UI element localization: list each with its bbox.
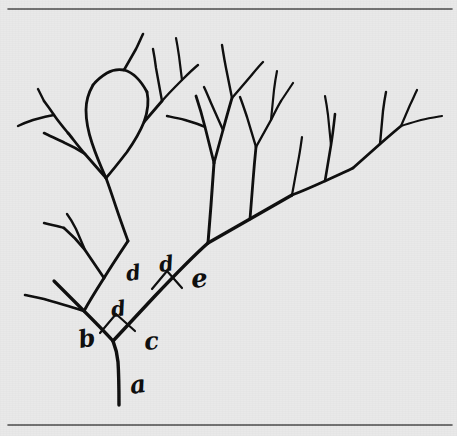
branch-right-branch-3 [292,168,353,195]
branch-trunk [113,341,119,405]
label-b: b [76,322,98,353]
branch-center-stem [208,163,214,243]
branch-right-mid-tip [292,137,302,195]
label-d3: d [157,250,175,277]
branch-right-stem-up [250,147,256,219]
label-a: a [128,369,148,400]
label-e: e [189,262,209,294]
branch-mid-tip-end [176,38,182,80]
branch-right-up-fork-r [256,101,281,147]
branch-left-canopy-tip1 [18,115,54,126]
branch-leaf-right-arc [106,92,148,178]
branch-left-fork-node [64,228,104,278]
drawing-figure: abcddde [0,0,457,436]
branch-left-canopy-tip2 [38,89,44,101]
branch-center-left-tip [167,116,205,127]
branch-center-up-fork-l [204,87,223,130]
branch-right-up-tip-b [281,83,293,101]
label-d1: d [109,295,127,322]
branch-center-up-fork-r [222,45,232,98]
branch-left-top-stem [106,178,128,241]
branch-leaf-apex [93,70,147,92]
branch-left-canopy-left [44,133,85,154]
label-c: c [143,326,161,356]
label-d2: d [124,259,142,286]
branch-right-up-fork-l [240,97,256,147]
branch-left-canopy-node [68,133,106,178]
tree-diagram-svg: abcddde [0,0,457,436]
branch-left-fork-b2 [44,223,64,228]
branch-right-far-up [380,92,386,144]
branch-right-far-node [353,126,401,168]
branch-leaf-stem-up [124,34,143,70]
branch-leaf-left-arc [86,85,106,178]
branch-center-up-tip [232,62,263,98]
branch-right-b3-tip [325,96,331,145]
branch-right-far-tip2 [401,90,417,126]
branch-right-far-tip1 [401,116,442,126]
branch-mid-left-tip [153,49,162,101]
rules-layer [8,9,452,425]
